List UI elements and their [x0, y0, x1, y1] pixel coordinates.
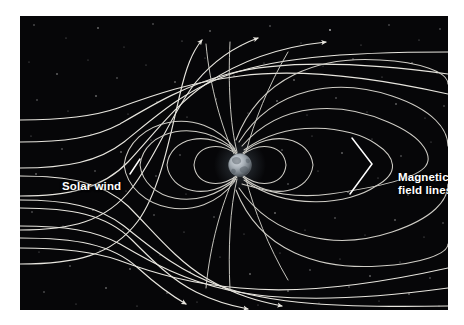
polar-line-s-2 [229, 179, 237, 290]
magnetosphere-figure: Solar wind Magneticfield lines [0, 0, 464, 325]
diagram-canvas [20, 16, 448, 310]
magnetic-field-lines-label-line2: field lines [398, 184, 448, 196]
solar-wind-leader [130, 159, 140, 174]
streamline-lower-3 [20, 238, 186, 304]
space-scene: Solar wind Magneticfield lines [20, 16, 448, 310]
streamline-lower-4 [20, 200, 448, 306]
solar-wind-label: Solar wind [62, 180, 121, 193]
streamline-upper-1 [20, 40, 202, 264]
magnetotail-loop-4 [239, 87, 448, 146]
streamline-lower-6 [20, 248, 448, 290]
streamline-lower-2 [20, 208, 248, 309]
streamline-upper-6 [20, 73, 448, 120]
streamline-lower-1 [20, 176, 282, 306]
watermark [286, 310, 446, 323]
magnetic-field-leader [350, 138, 372, 194]
magnetic-field-lines-label-line1: Magnetic [398, 171, 448, 183]
magnetotail-loop-7 [236, 190, 448, 267]
polar-line-n-2 [229, 42, 237, 152]
magnetic-field-lines-label: Magneticfield lines [398, 171, 448, 196]
magnetotail-loop-6 [236, 60, 448, 140]
earth-globe [229, 154, 252, 177]
